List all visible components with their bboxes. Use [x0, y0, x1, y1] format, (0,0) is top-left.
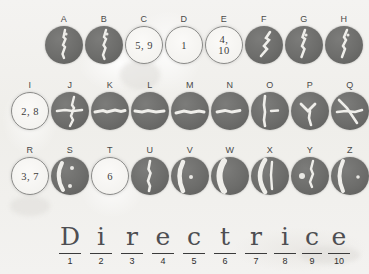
disc-cell-R[interactable]: R 3, 7 [11, 145, 49, 195]
disc-value-C: 5, 9 [126, 27, 162, 63]
disc-H[interactable] [325, 26, 363, 64]
disc-cell-Z[interactable]: Z [331, 145, 369, 195]
disc-label-Y: Y [291, 145, 329, 155]
disc-I[interactable]: 2, 8 [11, 92, 49, 130]
disc-cell-M[interactable]: M [171, 80, 209, 130]
answer-index: 7 [243, 256, 269, 266]
streak-vertical-icon [45, 26, 83, 64]
disc-label-U: U [131, 145, 169, 155]
disc-N[interactable] [211, 92, 249, 130]
disc-label-W: W [211, 145, 249, 155]
disc-D[interactable]: 1 [165, 26, 203, 64]
answer-index: 9 [300, 256, 324, 266]
disc-cell-X[interactable]: X [251, 145, 289, 195]
streak-y-icon [291, 92, 329, 130]
answer-line: D 1 i 2 r 3 e 4 c 5 t 6 r [0, 216, 369, 274]
streak-diagonal-icon [245, 26, 283, 64]
disc-cell-J[interactable]: J [51, 80, 89, 130]
disc-cell-V[interactable]: V [171, 145, 209, 195]
answer-blank [328, 253, 350, 254]
disc-E[interactable]: 4,10 [205, 26, 243, 64]
disc-K[interactable] [91, 92, 129, 130]
disc-cell-O[interactable]: O [251, 80, 289, 130]
answer-slot-10[interactable]: e 10 [326, 222, 352, 266]
disc-label-J: J [51, 80, 89, 90]
answer-slot-3[interactable]: r 3 [119, 222, 145, 266]
answer-slot-9[interactable]: c 9 [300, 222, 324, 266]
disc-cell-I[interactable]: I 2, 8 [11, 80, 49, 130]
disc-label-Q: Q [331, 80, 369, 90]
disc-cell-T[interactable]: T 6 [91, 145, 129, 195]
disc-cell-W[interactable]: W [211, 145, 249, 195]
answer-slot-8[interactable]: i 8 [272, 222, 298, 266]
answer-index: 10 [326, 256, 352, 266]
answer-slot-6[interactable]: t 6 [212, 222, 238, 266]
answer-index: 6 [212, 256, 238, 266]
disc-O[interactable] [251, 92, 289, 130]
disc-Y[interactable] [291, 157, 329, 195]
disc-value-E: 4,10 [206, 27, 242, 63]
disc-X[interactable] [251, 157, 289, 195]
streak-cross-icon [51, 92, 89, 130]
answer-slot-1[interactable]: D 1 [57, 222, 83, 266]
disc-label-E: E [205, 14, 243, 24]
answer-letter: c [300, 222, 324, 252]
disc-C[interactable]: 5, 9 [125, 26, 163, 64]
disc-W[interactable] [211, 157, 249, 195]
disc-Q[interactable] [331, 92, 369, 130]
disc-A[interactable] [45, 26, 83, 64]
disc-cell-S[interactable]: S [51, 145, 89, 195]
disc-F[interactable] [245, 26, 283, 64]
streak-vertical-icon [285, 26, 323, 64]
disc-G[interactable] [285, 26, 323, 64]
disc-label-N: N [211, 80, 249, 90]
disc-R[interactable]: 3, 7 [11, 157, 49, 195]
disc-V[interactable] [171, 157, 209, 195]
streak-crescent-icon [211, 157, 249, 195]
answer-blank [183, 253, 205, 254]
disc-cell-N[interactable]: N [211, 80, 249, 130]
streak-vertical-icon [291, 157, 329, 195]
disc-B[interactable] [85, 26, 123, 64]
disc-cell-U[interactable]: U [131, 145, 169, 195]
disc-cell-Q[interactable]: Q [331, 80, 369, 130]
disc-P[interactable] [291, 92, 329, 130]
disc-label-X: X [251, 145, 289, 155]
disc-label-H: H [325, 14, 363, 24]
disc-cell-Y[interactable]: Y [291, 145, 329, 195]
answer-slot-5[interactable]: c 5 [181, 222, 207, 266]
answer-slot-4[interactable]: e 4 [150, 222, 176, 266]
streak-horizontal-icon [91, 92, 129, 130]
disc-cell-L[interactable]: L [131, 80, 169, 130]
disc-cell-E[interactable]: E 4,10 [205, 14, 243, 64]
answer-slot-2[interactable]: i 2 [88, 222, 114, 266]
disc-J[interactable] [51, 92, 89, 130]
answer-letter: D [57, 222, 83, 252]
streak-horizontal-icon [171, 92, 209, 130]
answer-letter: e [150, 222, 176, 252]
disc-cell-F[interactable]: F [245, 14, 283, 64]
disc-cell-B[interactable]: B [85, 14, 123, 64]
answer-index: 3 [119, 256, 145, 266]
disc-label-Z: Z [331, 145, 369, 155]
answer-slot-7[interactable]: r 7 [243, 222, 269, 266]
disc-S[interactable] [51, 157, 89, 195]
answer-blank [302, 253, 322, 254]
disc-value-I: 2, 8 [12, 93, 48, 129]
disc-cell-K[interactable]: K [91, 80, 129, 130]
disc-T[interactable]: 6 [91, 157, 129, 195]
disc-L[interactable] [131, 92, 169, 130]
disc-cell-G[interactable]: G [285, 14, 323, 64]
disc-M[interactable] [171, 92, 209, 130]
disc-cell-A[interactable]: A [45, 14, 83, 64]
disc-value-T: 6 [92, 158, 128, 194]
disc-cell-D[interactable]: D 1 [165, 14, 203, 64]
disc-row-2: I 2, 8 J K L [0, 80, 369, 142]
disc-U[interactable] [131, 157, 169, 195]
disc-cell-C[interactable]: C 5, 9 [125, 14, 163, 64]
disc-cell-H[interactable]: H [325, 14, 363, 64]
disc-cell-P[interactable]: P [291, 80, 329, 130]
answer-blank [214, 253, 236, 254]
disc-Z[interactable] [331, 157, 369, 195]
answer-letter: r [243, 222, 269, 252]
